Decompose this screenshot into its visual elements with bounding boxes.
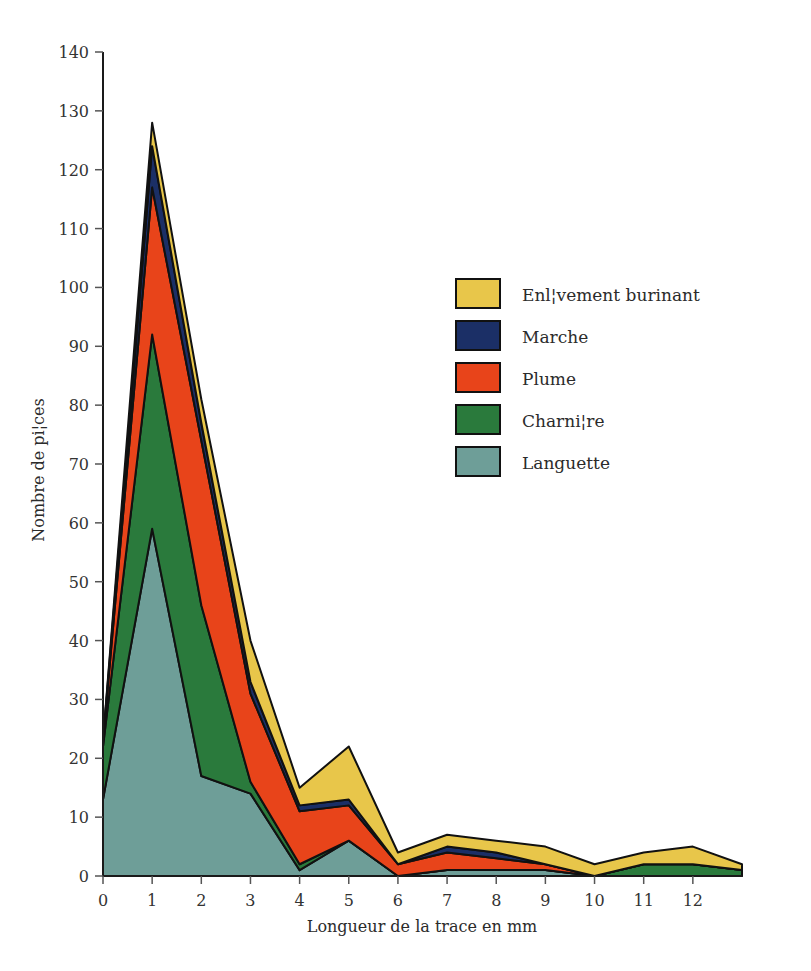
x-tick-label: 6 — [393, 891, 403, 910]
y-tick-label: 40 — [69, 632, 89, 651]
y-axis-ticks: 0102030405060708090100110120130140 — [58, 43, 103, 886]
x-tick-label: 0 — [98, 891, 108, 910]
x-tick-label: 2 — [196, 891, 206, 910]
x-tick-label: 8 — [491, 891, 501, 910]
stacked-area-chart: 0102030405060708090100110120130140 01234… — [0, 0, 811, 971]
y-tick-label: 80 — [69, 396, 89, 415]
chart-area-series-group — [103, 123, 742, 876]
y-tick-label: 50 — [69, 573, 89, 592]
y-axis-title: Nombre de pi¦ces — [29, 398, 48, 541]
y-tick-label: 70 — [69, 455, 89, 474]
x-tick-label: 9 — [540, 891, 550, 910]
y-tick-label: 120 — [58, 161, 89, 180]
y-tick-label: 60 — [69, 514, 89, 533]
x-tick-label: 1 — [147, 891, 157, 910]
legend-label-enl-vement-burinant: Enl¦vement burinant — [522, 285, 700, 305]
x-tick-label: 5 — [344, 891, 354, 910]
y-tick-label: 10 — [69, 808, 89, 827]
x-tick-label: 3 — [245, 891, 255, 910]
y-tick-label: 100 — [58, 278, 89, 297]
x-tick-label: 7 — [442, 891, 452, 910]
chart-figure: 0102030405060708090100110120130140 01234… — [0, 0, 811, 971]
y-tick-label: 110 — [58, 220, 89, 239]
y-tick-label: 90 — [69, 337, 89, 356]
legend-swatch-plume — [456, 363, 500, 392]
legend-swatch-languette — [456, 447, 500, 476]
legend-swatch-charni-re — [456, 405, 500, 434]
legend-label-plume: Plume — [522, 369, 576, 389]
x-tick-label: 12 — [683, 891, 703, 910]
y-tick-label: 30 — [69, 690, 89, 709]
legend-label-marche: Marche — [522, 327, 588, 347]
y-tick-label: 130 — [58, 102, 89, 121]
x-tick-label: 10 — [584, 891, 604, 910]
y-tick-label: 20 — [69, 749, 89, 768]
y-tick-label: 0 — [79, 867, 89, 886]
x-tick-label: 11 — [634, 891, 654, 910]
legend-swatch-marche — [456, 321, 500, 350]
x-tick-label: 4 — [295, 891, 305, 910]
x-axis-ticks: 0123456789101112 — [98, 876, 703, 910]
chart-legend: Enl¦vement burinantMarchePlumeCharni¦reL… — [456, 279, 700, 476]
legend-swatch-enl-vement-burinant — [456, 279, 500, 308]
legend-label-languette: Languette — [522, 453, 610, 473]
x-axis-title: Longueur de la trace en mm — [307, 917, 538, 936]
y-tick-label: 140 — [58, 43, 89, 62]
legend-label-charni-re: Charni¦re — [522, 411, 605, 431]
